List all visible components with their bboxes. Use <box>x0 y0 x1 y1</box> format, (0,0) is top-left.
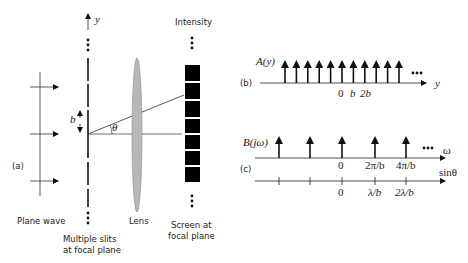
lens-icon <box>132 58 142 212</box>
sin-tick-0: 0 <box>338 186 344 198</box>
panel-b-label: (b) <box>240 78 252 88</box>
sin-tick-lambda-b: λ/b <box>367 186 382 198</box>
panel-c-label: (c) <box>240 164 251 174</box>
b-axis-label: y <box>434 77 440 89</box>
lens-label: Lens <box>129 216 149 226</box>
screen-label-line2: focal plane <box>168 231 215 241</box>
plane-wave-label: Plane wave <box>17 216 65 226</box>
panel-c: (c) B(jω) ω 0 2π/b 4π/b sinθ 0 λ/b 2λ/b <box>240 136 457 198</box>
sin-theta-axis-label: sinθ <box>439 166 457 178</box>
omega-tick-4pi-b: 4π/b <box>396 159 416 171</box>
spectrum-impulses <box>279 140 406 158</box>
b-tick-2b: 2b <box>360 87 372 99</box>
omega-axis-label: ω <box>443 144 451 156</box>
panel-b: (b) A(y) y 0 b 2b <box>240 55 440 99</box>
screen-label-line1: Screen at <box>171 220 212 230</box>
b-label: b <box>70 113 76 125</box>
intensity-screen <box>185 37 200 208</box>
slits-label-line1: Multiple slits <box>63 234 117 244</box>
y-axis-label: y <box>94 13 100 25</box>
slit-plane <box>87 14 90 224</box>
impulse-train <box>285 64 399 83</box>
a-of-y-label: A(y) <box>255 55 275 68</box>
slits-label-line2: at focal plane <box>63 245 121 255</box>
b-of-jomega-label: B(jω) <box>243 136 268 149</box>
panel-a-label: (a) <box>12 161 24 171</box>
plane-wave <box>30 72 58 196</box>
diffraction-diagram: (a) Plane wave y b <box>0 0 468 263</box>
sin-tick-2lambda-b: 2λ/b <box>395 186 414 198</box>
b-tick-b: b <box>350 87 356 99</box>
intensity-label: Intensity <box>175 17 212 27</box>
theta-label: θ <box>112 121 118 133</box>
omega-tick-2pi-b: 2π/b <box>365 159 385 171</box>
b-tick-0: 0 <box>338 87 344 99</box>
panel-a: (a) Plane wave y b <box>12 13 215 255</box>
omega-tick-0: 0 <box>338 159 344 171</box>
